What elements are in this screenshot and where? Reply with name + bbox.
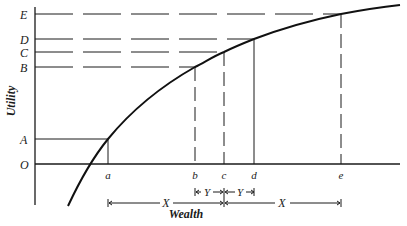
x-interval-arrows (108, 188, 341, 207)
y-axis-title: Utility (4, 85, 18, 116)
utility-diagram: E D C B A O Utility a b c d e Y Y X X (0, 0, 407, 226)
label-b: B (20, 61, 28, 75)
label-e: E (19, 8, 28, 22)
label-point-c: c (222, 169, 227, 181)
interval-label-y2: Y (237, 186, 245, 198)
label-c: C (20, 46, 29, 60)
label-point-b: b (192, 169, 198, 181)
interval-label-x2: X (277, 196, 286, 210)
label-point-d: d (251, 169, 257, 181)
interval-label-y1: Y (204, 186, 212, 198)
label-point-e: e (339, 169, 344, 181)
label-point-a: a (105, 169, 111, 181)
x-axis-title: Wealth (169, 207, 204, 221)
label-d: D (19, 33, 29, 47)
utility-curve (68, 5, 400, 206)
label-a: A (19, 133, 28, 147)
label-o: O (20, 158, 29, 172)
